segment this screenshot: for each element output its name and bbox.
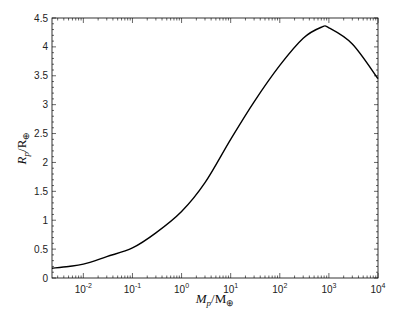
x-tick-label: 104: [370, 282, 385, 295]
y-tick-label: 3: [42, 99, 48, 110]
x-tick-labels: 10-210-1100101102103104: [75, 282, 386, 295]
x-tick-label: 10-2: [75, 282, 92, 295]
x-tick-label: 100: [174, 282, 189, 295]
data-line: [52, 26, 378, 268]
y-axis-label: Rp/R⊕: [14, 132, 31, 166]
y-tick-label: 0: [42, 273, 48, 284]
x-tick-label: 103: [321, 282, 336, 295]
y-tick-label: 2: [42, 157, 48, 168]
y-tick-label: 1: [42, 215, 48, 226]
y-tick-label: 0.5: [34, 244, 48, 255]
y-tick-label: 4: [42, 41, 48, 52]
y-tick-label: 4.5: [34, 13, 48, 24]
x-tick-label: 102: [272, 282, 287, 295]
y-tick-label: 2.5: [34, 128, 48, 139]
y-tick-label: 3.5: [34, 70, 48, 81]
y-tick-label: 1.5: [34, 186, 48, 197]
x-tick-label: 10-1: [124, 282, 141, 295]
y-tick-labels: 00.511.522.533.544.5: [34, 13, 48, 284]
plot-frame: [52, 18, 378, 278]
chart: 00.511.522.533.544.5 10-210-110010110210…: [0, 0, 401, 331]
axis-ticks: [52, 18, 378, 278]
